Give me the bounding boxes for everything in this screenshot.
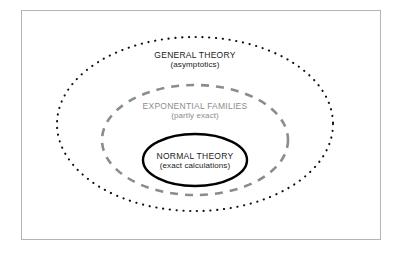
- middle-ellipse-label: EXPONENTIAL FAMILIES (partly exact): [143, 101, 248, 120]
- middle-ellipse-label-subtitle: (partly exact): [143, 111, 248, 120]
- inner-ellipse-label-title: NORMAL THEORY: [157, 151, 234, 161]
- outer-ellipse-label: GENERAL THEORY (asymptotics): [154, 50, 235, 69]
- inner-ellipse-label: NORMAL THEORY (exact calculations): [157, 151, 234, 170]
- outer-ellipse-label-subtitle: (asymptotics): [154, 60, 235, 69]
- outer-ellipse-label-title: GENERAL THEORY: [154, 50, 235, 60]
- figure-canvas: GENERAL THEORY (asymptotics) EXPONENTIAL…: [0, 0, 401, 254]
- nested-ellipses-diagram: [0, 0, 401, 254]
- inner-ellipse-label-subtitle: (exact calculations): [157, 161, 234, 170]
- middle-ellipse-label-title: EXPONENTIAL FAMILIES: [143, 101, 248, 111]
